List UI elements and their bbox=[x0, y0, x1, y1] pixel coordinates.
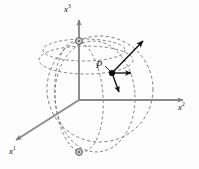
figure-canvas bbox=[0, 0, 199, 169]
south-pole-marker bbox=[76, 149, 83, 156]
sphere-outline bbox=[47, 36, 153, 142]
point-label-p: P bbox=[96, 60, 102, 70]
axis-label-x1: x1 bbox=[9, 146, 16, 156]
latitude-mid-ellipse bbox=[39, 46, 133, 74]
axis-x1-line bbox=[16, 100, 79, 140]
tangent-south-vector bbox=[112, 73, 119, 92]
north-pole-marker bbox=[76, 38, 83, 45]
meridian-through-p-ellipse bbox=[52, 39, 138, 154]
axis-label-x3: x3 bbox=[64, 4, 71, 14]
sphere-coordinate-figure: x3 x2 x1 P bbox=[0, 0, 199, 169]
axis-label-x2: x2 bbox=[178, 102, 185, 112]
